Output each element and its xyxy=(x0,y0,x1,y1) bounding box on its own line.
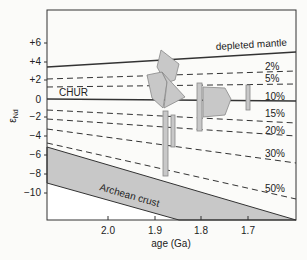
pct-label-15: 15% xyxy=(265,108,285,119)
pct-label-50: 50% xyxy=(265,183,285,194)
field-bar-1.71 xyxy=(246,85,250,110)
pct-label-10: 10% xyxy=(265,91,285,102)
y-tick-label: −6 xyxy=(30,149,42,160)
y-tick-label: −10 xyxy=(24,187,41,198)
y-tick-label: +4 xyxy=(30,56,42,67)
svg-text:εNd: εNd xyxy=(7,109,19,123)
pct-label-20: 20% xyxy=(265,125,285,136)
y-axis-title: εNd xyxy=(7,109,19,123)
depleted-mantle-label: depleted mantle xyxy=(215,37,287,52)
field-polygon-left xyxy=(147,72,167,108)
x-tick-label: 1.9 xyxy=(148,225,162,236)
y-tick-label: −8 xyxy=(30,168,42,179)
x-axis-title: age (Ga) xyxy=(151,238,190,249)
field-bar-1.8 xyxy=(197,83,202,131)
x-tick-label: 2.0 xyxy=(101,225,115,236)
pct-label-30: 30% xyxy=(265,148,285,159)
chur-label: CHUR xyxy=(59,87,88,98)
y-tick-label: 0 xyxy=(35,94,41,105)
chart: +6 +4 +2 0 −2 −4 −6 −8 −10 εNd 2.0 1.9 1… xyxy=(0,0,307,260)
data-fields xyxy=(147,50,250,176)
field-bar-short xyxy=(171,115,175,147)
x-tick-label: 1.7 xyxy=(241,225,255,236)
y-tick-label: +2 xyxy=(30,74,42,85)
y-tick-label: −4 xyxy=(30,130,42,141)
y-tick-label: −2 xyxy=(30,111,42,122)
pct-label-5: 5% xyxy=(265,73,280,84)
pct-label-2: 2% xyxy=(265,61,280,72)
field-polygon-1.78 xyxy=(203,87,231,117)
y-tick-label: +6 xyxy=(30,37,42,48)
field-bar-tall xyxy=(163,111,168,176)
x-tick-label: 1.8 xyxy=(194,225,208,236)
